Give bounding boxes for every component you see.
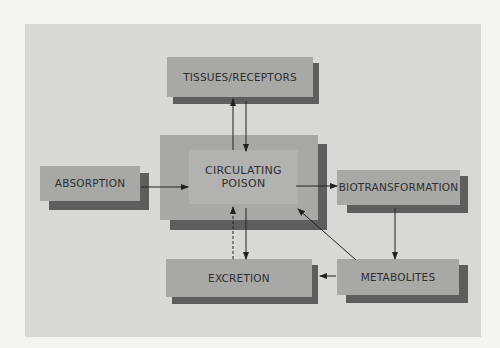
- metabolites-label: METABOLITES: [361, 271, 436, 284]
- tissues-receptors-label: TISSUES/RECEPTORS: [183, 71, 297, 84]
- absorption-label: ABSORPTION: [55, 177, 125, 190]
- circulating-label-line2: POISON: [205, 177, 282, 190]
- biotransformation-label: BIOTRANSFORMATION: [339, 181, 459, 194]
- biotransformation-box: BIOTRANSFORMATION: [337, 170, 460, 205]
- circulating-poison-box: CIRCULATING POISON: [189, 150, 298, 204]
- metabolites-box: METABOLITES: [337, 259, 459, 295]
- absorption-box: ABSORPTION: [40, 166, 140, 201]
- tissues-receptors-box: TISSUES/RECEPTORS: [167, 57, 313, 97]
- excretion-box: EXCRETION: [166, 259, 312, 297]
- circulating-label-line1: CIRCULATING: [205, 164, 282, 177]
- excretion-label: EXCRETION: [208, 272, 270, 285]
